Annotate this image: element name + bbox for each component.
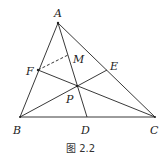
segment-CF bbox=[38, 70, 155, 117]
label-A: A bbox=[53, 7, 62, 20]
geometry-figure: A M E F P B D C 图 2.2 bbox=[0, 0, 165, 165]
label-C: C bbox=[150, 124, 159, 137]
point-C-dot bbox=[154, 116, 156, 118]
point-A-dot bbox=[57, 22, 59, 24]
label-B: B bbox=[12, 124, 21, 137]
point-P-dot bbox=[76, 85, 78, 87]
label-F: F bbox=[25, 65, 34, 78]
point-B-dot bbox=[19, 116, 21, 118]
point-F-dot bbox=[37, 69, 39, 71]
figure-caption: 图 2.2 bbox=[66, 143, 95, 154]
label-E: E bbox=[109, 60, 118, 73]
label-D: D bbox=[80, 124, 90, 137]
label-M: M bbox=[72, 53, 85, 66]
label-P: P bbox=[65, 93, 74, 106]
